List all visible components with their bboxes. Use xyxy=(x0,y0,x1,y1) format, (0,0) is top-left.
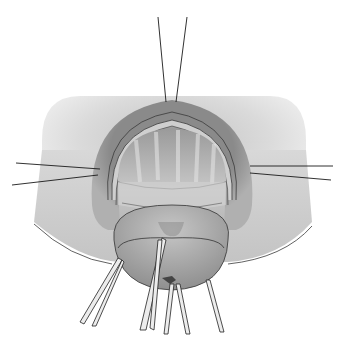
surgical-illustration xyxy=(0,0,344,340)
clamp-center-left xyxy=(164,284,174,334)
clamp-right xyxy=(206,280,224,332)
clamp-center-right xyxy=(176,284,190,334)
suture-top-right xyxy=(176,17,187,102)
illustration-svg xyxy=(0,0,344,340)
suture-top-left xyxy=(158,17,166,102)
tissue-dome xyxy=(114,205,229,290)
